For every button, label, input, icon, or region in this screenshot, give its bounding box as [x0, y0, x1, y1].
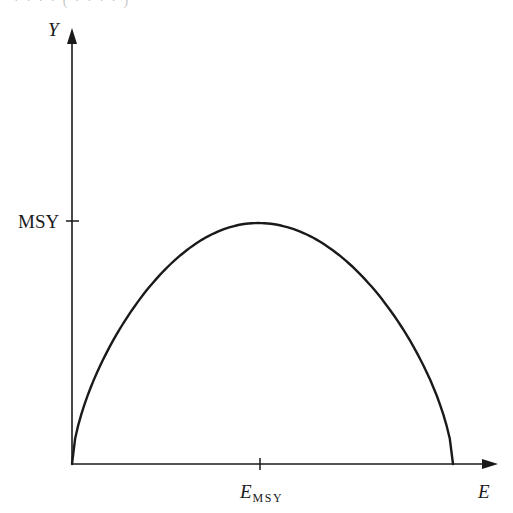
y-axis-arrow-icon: [67, 28, 77, 44]
yield-effort-chart: [0, 0, 513, 513]
y-axis-label: Y: [48, 20, 59, 39]
y-tick-label-msy: MSY: [18, 212, 59, 231]
x-tick-label-main: E: [240, 481, 252, 502]
x-axis-label: E: [478, 482, 490, 501]
yield-curve: [72, 223, 453, 464]
x-tick-label-emsy: EMSY: [240, 482, 283, 501]
x-tick-label-sub: MSY: [253, 491, 284, 505]
x-axis-arrow-icon: [482, 459, 498, 469]
